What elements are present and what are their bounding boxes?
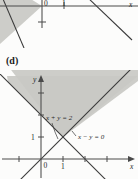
panel-d-svg: x + y = 2 x − y = 0 0 1 1 x y [0,70,138,179]
origin-label: 0 [44,161,48,170]
figure-fragment-c: 0 1 x [0,0,138,48]
y-tick-label-1: 1 [31,133,35,142]
figure-panel-d: x + y = 2 x − y = 0 0 1 1 x y [0,70,138,179]
fragment-c-svg: 0 1 x [0,0,138,48]
fragment-x-axis-label: x [128,0,133,9]
leader-line-x-minus-y [72,131,76,136]
label-line-x-minus-y-equals-0: x − y = 0 [77,133,105,141]
fragment-x-tick-label: 1 [62,0,66,8]
fragment-origin-label: 0 [44,0,48,8]
panel-label-d: (d) [6,55,18,67]
label-line-x-plus-y-equals-2: x + y = 2 [45,114,73,122]
y-axis-label: y [32,75,37,84]
figure-page: 0 1 x (d) [0,0,138,179]
x-axis-label: x [129,162,134,171]
x-tick-label-1: 1 [61,162,65,171]
